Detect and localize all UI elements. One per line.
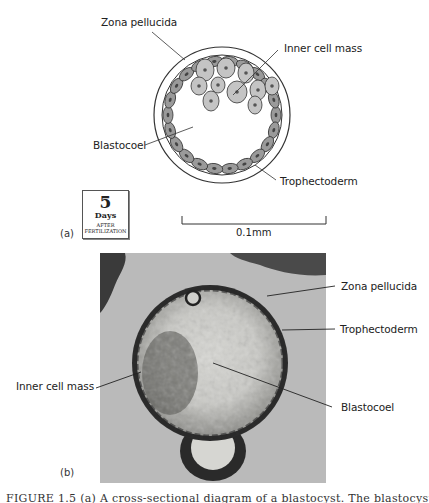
- inner-cell-mass-cell: [238, 63, 254, 83]
- scale-bar: [182, 216, 326, 224]
- part-b-label: (b): [60, 467, 74, 478]
- trophectoderm-cell: [271, 107, 281, 124]
- label-blastocoel-b: Blastocoel: [341, 401, 394, 413]
- label-trophectoderm-a: Trophectoderm: [280, 175, 358, 187]
- trophectoderm-cell: [163, 107, 173, 124]
- leader-zona-a: [152, 32, 185, 60]
- figure-caption: FIGURE 1.5 (a) A cross-sectional diagram…: [6, 492, 429, 503]
- label-inner-cell-mass-a: Inner cell mass: [284, 42, 362, 54]
- inner-cell-mass-cell: [265, 77, 279, 95]
- label-zona-pellucida-b: Zona pellucida: [341, 280, 417, 292]
- inner-cell-mass-cell: [211, 77, 225, 93]
- label-inner-cell-mass-b: Inner cell mass: [16, 380, 94, 392]
- label-zona-pellucida-a: Zona pellucida: [101, 16, 177, 28]
- scale-bar-label: 0.1mm: [236, 227, 271, 238]
- micrograph-render: [100, 253, 326, 483]
- label-trophectoderm-b: Trophectoderm: [340, 323, 418, 335]
- part-a-label: (a): [60, 228, 74, 239]
- days-after-fertilization-badge: 5 Days AFTER FERTILIZATION: [82, 190, 129, 239]
- badge-number: 5: [83, 194, 128, 211]
- inner-cell-mass-cell: [248, 96, 262, 114]
- inner-cell-mass-cell: [217, 58, 235, 78]
- small-bubble: [186, 291, 200, 305]
- inner-cell-mass-cell: [203, 91, 219, 111]
- badge-line2: FERTILIZATION: [83, 228, 128, 234]
- blastocyst-micrograph: [100, 253, 326, 483]
- inner-cell-mass-cell: [191, 77, 207, 95]
- badge-unit: Days: [83, 211, 128, 220]
- label-blastocoel-a: Blastocoel: [93, 139, 146, 151]
